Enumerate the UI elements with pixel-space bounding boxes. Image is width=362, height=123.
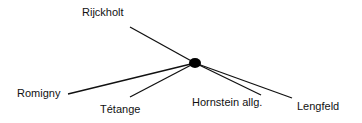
connector-line <box>195 63 261 95</box>
node-label: Rijckholt <box>82 6 124 18</box>
node-label: Tétange <box>100 103 140 115</box>
hub-node <box>189 58 201 68</box>
connector-line <box>195 63 292 98</box>
connector-line <box>68 63 195 94</box>
connector-line <box>130 63 195 97</box>
node-label: Hornstein allg. <box>192 96 262 108</box>
node-label: Lengfeld <box>297 100 339 112</box>
network-diagram: RijckholtRomignyTétangeHornstein allg.Le… <box>0 0 362 123</box>
connector-line <box>130 27 195 63</box>
node-label: Romigny <box>17 87 60 99</box>
